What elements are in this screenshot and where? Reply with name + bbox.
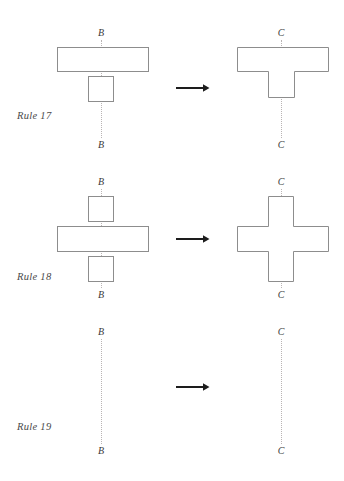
rule-19-right-axis-top-label: C [271, 326, 291, 338]
diagram-canvas: Rule 17 B B C C Rule 18 B B [0, 0, 344, 481]
rule-19-left-axis-line [101, 339, 102, 444]
rule-19-rewrite-arrow [176, 379, 216, 395]
rule-19-label: Rule 19 [17, 421, 51, 432]
rule-19-right-axis-line [281, 339, 282, 444]
rule-18-right-shapes [0, 0, 344, 481]
rule-19-right-axis-bottom-label: C [271, 445, 291, 457]
rule-19-left-axis-top-label: B [91, 326, 111, 338]
rule-18-right-cross-shape [238, 197, 329, 282]
rule-19-left-axis-bottom-label: B [91, 445, 111, 457]
